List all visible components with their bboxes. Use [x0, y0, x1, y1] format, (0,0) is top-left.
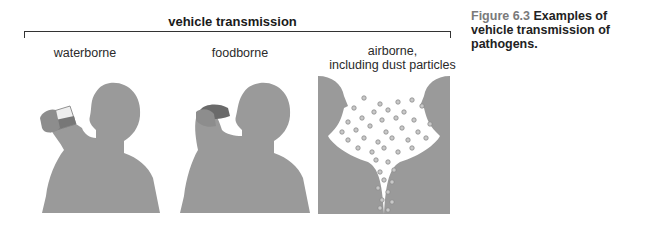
foodborne-illustration — [170, 78, 315, 218]
label-airborne-line2: including dust particles — [325, 58, 460, 72]
figure-caption: Figure 6.3 Examples of vehicle transmiss… — [471, 9, 651, 51]
waterborne-illustration — [20, 78, 160, 218]
person-silhouette — [180, 83, 310, 213]
label-foodborne: foodborne — [200, 46, 280, 60]
group-bracket — [24, 31, 451, 38]
label-airborne-line1: airborne, — [325, 44, 460, 58]
label-airborne: airborne, including dust particles — [325, 44, 460, 72]
label-waterborne: waterborne — [40, 46, 130, 60]
figure-number: Figure 6.3 — [471, 9, 530, 23]
person-silhouette — [42, 83, 160, 213]
figure-title: vehicle transmission — [0, 14, 465, 29]
airborne-illustration — [318, 76, 450, 214]
